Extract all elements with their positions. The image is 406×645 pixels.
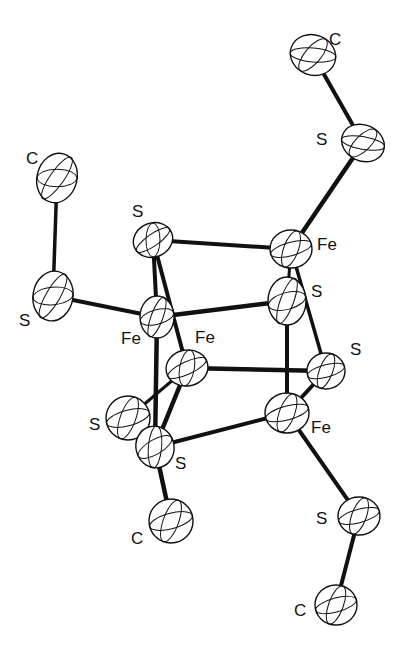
atoms-layer — [27, 27, 392, 627]
atom-s-ellipsoid — [337, 496, 381, 537]
atom-label-s: S — [89, 415, 100, 434]
atom-fe-ellipsoid — [269, 229, 313, 270]
atom-label-s: S — [311, 282, 322, 301]
atom-s-ellipsoid — [127, 216, 179, 265]
atom-label-s: S — [19, 311, 30, 330]
atom-label-s: S — [175, 454, 186, 473]
atom-c-ellipsoid — [314, 584, 358, 627]
molecular-structure-diagram: CSFeSCSFeSFeSSSFeCSC — [0, 0, 406, 645]
atom-label-s: S — [316, 130, 327, 149]
atom-label-s: S — [350, 340, 361, 359]
atom-label-fe: Fe — [311, 418, 331, 437]
atom-s-ellipsoid — [334, 116, 392, 171]
atom-label-c: C — [26, 149, 38, 168]
atom-label-fe: Fe — [317, 235, 337, 254]
atom-label-fe: Fe — [121, 329, 141, 348]
atom-label-s: S — [316, 509, 327, 528]
atom-label-c: C — [294, 601, 306, 620]
atom-label-c: C — [329, 30, 341, 49]
atom-label-s: S — [132, 202, 143, 221]
atom-c-ellipsoid — [148, 498, 194, 545]
atom-label-fe: Fe — [195, 328, 215, 347]
atom-label-c: C — [131, 529, 143, 548]
atom-s-ellipsoid — [27, 267, 79, 325]
